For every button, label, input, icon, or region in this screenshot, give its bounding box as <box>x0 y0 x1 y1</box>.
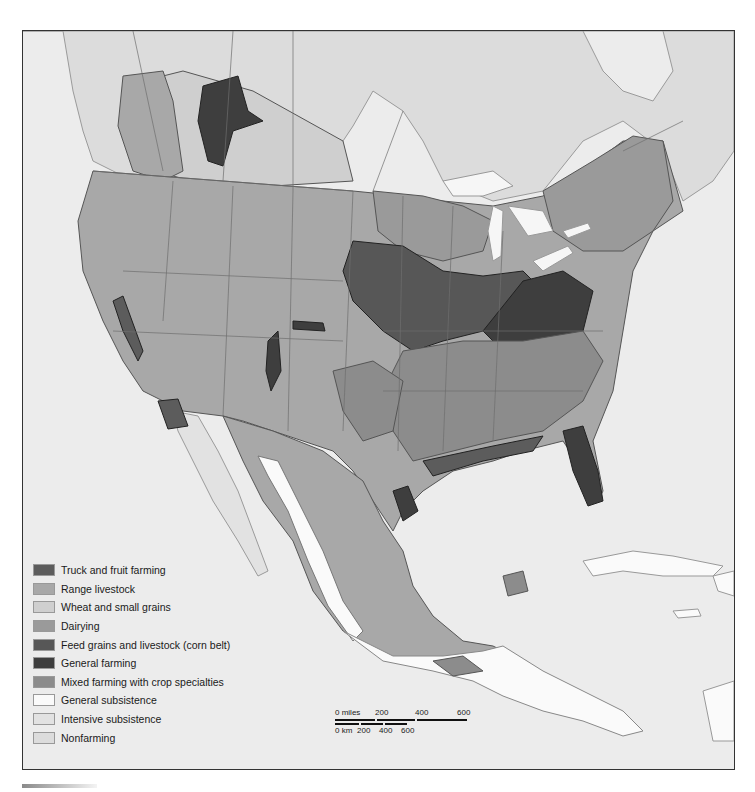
scale-km-bar <box>361 723 383 725</box>
scale-miles-tick: 600 <box>457 708 470 717</box>
scale-km-tick: 600 <box>401 726 414 735</box>
legend-swatch-corn-belt <box>33 639 55 651</box>
map-frame: Truck and fruit farming Range livestock … <box>22 30 735 770</box>
legend-label: Range livestock <box>61 583 135 595</box>
legend-item: General subsistence <box>33 691 230 710</box>
legend-item: Truck and fruit farming <box>33 561 230 580</box>
legend: Truck and fruit farming Range livestock … <box>33 561 230 747</box>
scale-miles-label: 0 miles <box>335 708 360 717</box>
legend-item: Feed grains and livestock (corn belt) <box>33 635 230 654</box>
legend-swatch-general-subsistence <box>33 694 55 706</box>
region-yucatan-mixed <box>503 571 528 596</box>
scale-km-tick: 200 <box>357 726 370 735</box>
legend-label: General subsistence <box>61 694 157 706</box>
scale-km-bar <box>335 723 359 725</box>
legend-swatch-nonfarming <box>33 732 55 744</box>
scale-miles-bar <box>335 719 375 721</box>
legend-item: Nonfarming <box>33 728 230 747</box>
legend-item: General farming <box>33 654 230 673</box>
region-colorado-truck <box>293 321 325 331</box>
legend-label: Feed grains and livestock (corn belt) <box>61 639 230 651</box>
scale-miles-bar <box>377 719 415 721</box>
legend-swatch-range-livestock <box>33 583 55 595</box>
scale-bar: 0 miles 200 400 600 0 km 200 400 600 <box>335 708 475 738</box>
scale-miles-tick: 400 <box>415 708 428 717</box>
legend-swatch-dairying <box>33 620 55 632</box>
legend-label: Mixed farming with crop specialties <box>61 676 224 688</box>
island-cuba <box>583 551 723 576</box>
legend-item: Wheat and small grains <box>33 598 230 617</box>
legend-label: Intensive subsistence <box>61 713 161 725</box>
legend-item: Mixed farming with crop specialties <box>33 673 230 692</box>
footer-gradient-rule <box>22 784 97 788</box>
scale-km-tick: 400 <box>379 726 392 735</box>
legend-label: Dairying <box>61 620 100 632</box>
legend-label: Truck and fruit farming <box>61 564 166 576</box>
legend-swatch-general-farming <box>33 657 55 669</box>
legend-swatch-mixed-farming <box>33 676 55 688</box>
legend-swatch-intensive-subsistence <box>33 713 55 725</box>
legend-item: Range livestock <box>33 580 230 599</box>
legend-item: Intensive subsistence <box>33 710 230 729</box>
land-south-america <box>703 681 734 741</box>
island-jamaica <box>673 609 701 618</box>
legend-label: General farming <box>61 657 136 669</box>
legend-item: Dairying <box>33 617 230 636</box>
scale-miles-bar <box>417 719 467 721</box>
legend-swatch-wheat <box>33 601 55 613</box>
scale-miles-tick: 200 <box>375 708 388 717</box>
scale-km-label: 0 km <box>335 726 352 735</box>
island-hispaniola <box>713 571 734 596</box>
legend-label: Wheat and small grains <box>61 601 171 613</box>
legend-swatch-truck-fruit <box>33 564 55 576</box>
legend-label: Nonfarming <box>61 732 115 744</box>
scale-km-bar <box>385 723 407 725</box>
